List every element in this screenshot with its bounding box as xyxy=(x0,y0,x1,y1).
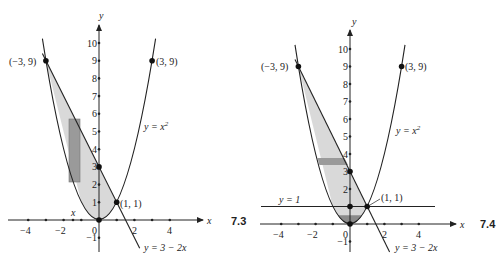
svg-text:2: 2 xyxy=(382,229,387,240)
shaded-region xyxy=(298,67,367,225)
shaded-region xyxy=(46,61,117,220)
svg-text:5: 5 xyxy=(92,126,97,137)
svg-text:−2: −2 xyxy=(55,225,66,236)
svg-text:4: 4 xyxy=(92,144,97,155)
label-point-3-9: (3, 9) xyxy=(405,61,427,73)
svg-text:2: 2 xyxy=(92,179,97,190)
point-0-3 xyxy=(347,169,353,175)
y-axis-label: y xyxy=(98,10,104,21)
point-0-1 xyxy=(347,204,353,210)
svg-text:2: 2 xyxy=(132,225,137,236)
label-parabola: y = x2 xyxy=(143,120,169,132)
svg-text:8: 8 xyxy=(92,73,97,84)
figure-number: 7.3 xyxy=(231,215,246,227)
svg-text:7: 7 xyxy=(343,96,348,107)
svg-text:−2: −2 xyxy=(307,229,318,240)
svg-text:6: 6 xyxy=(92,108,97,119)
point-3-9 xyxy=(399,64,405,70)
vertical-strip xyxy=(69,119,80,182)
label-point-neg3-9: (−3, 9) xyxy=(9,56,36,68)
svg-text:4: 4 xyxy=(343,149,348,160)
point-0-3 xyxy=(96,164,102,170)
point-3-9 xyxy=(149,58,155,64)
svg-text:−4: −4 xyxy=(20,225,31,236)
svg-text:4: 4 xyxy=(167,225,172,236)
svg-text:8: 8 xyxy=(343,79,348,90)
svg-text:4: 4 xyxy=(416,229,421,240)
label-point-1-1: (1, 1) xyxy=(120,198,142,210)
y-axis-label: y xyxy=(351,16,357,27)
x-axis-label: x xyxy=(459,219,465,230)
label-hline: y = 1 xyxy=(278,194,300,205)
svg-text:9: 9 xyxy=(343,61,348,72)
label-line: y = 3 − 2x xyxy=(143,242,187,253)
point-neg3-9 xyxy=(296,64,302,70)
label-point-3-9: (3, 9) xyxy=(156,56,178,68)
label-strip-x: x xyxy=(70,207,76,218)
svg-text:10: 10 xyxy=(87,38,97,49)
point-origin xyxy=(347,221,353,227)
label-point-neg3-9: (−3, 9) xyxy=(261,61,288,73)
svg-text:3: 3 xyxy=(343,166,348,177)
label-point-1-1: (1, 1) xyxy=(381,192,403,204)
svg-text:−1: −1 xyxy=(337,236,348,247)
svg-text:9: 9 xyxy=(92,55,97,66)
svg-text:3: 3 xyxy=(92,161,97,172)
x-axis-label: x xyxy=(206,215,212,226)
pointer-arrow xyxy=(370,199,380,205)
svg-text:7: 7 xyxy=(92,91,97,102)
point-1-1 xyxy=(114,200,120,206)
point-origin xyxy=(96,217,102,223)
svg-text:−4: −4 xyxy=(273,229,284,240)
point-neg3-9 xyxy=(43,58,49,64)
point-1-1 xyxy=(364,204,370,210)
figure-number: 7.4 xyxy=(480,218,496,230)
figure-7-4: −4 −2 0 2 4 −1 2 3 4 5 6 7 8 9 10 y x (−… xyxy=(260,16,496,253)
svg-text:10: 10 xyxy=(338,44,348,55)
figure-7-3: −4 −2 0 2 4 −1 1 2 3 4 5 6 7 8 9 10 y x … xyxy=(8,10,246,253)
svg-text:6: 6 xyxy=(343,114,348,125)
svg-text:−1: −1 xyxy=(86,232,97,243)
svg-text:1: 1 xyxy=(92,197,97,208)
svg-text:2: 2 xyxy=(343,184,348,195)
svg-text:5: 5 xyxy=(343,131,348,142)
figure-canvas: −4 −2 0 2 4 −1 1 2 3 4 5 6 7 8 9 10 y x … xyxy=(0,0,500,258)
label-parabola: y = x2 xyxy=(395,124,421,136)
label-line: y = 3 − 2x xyxy=(394,242,438,253)
